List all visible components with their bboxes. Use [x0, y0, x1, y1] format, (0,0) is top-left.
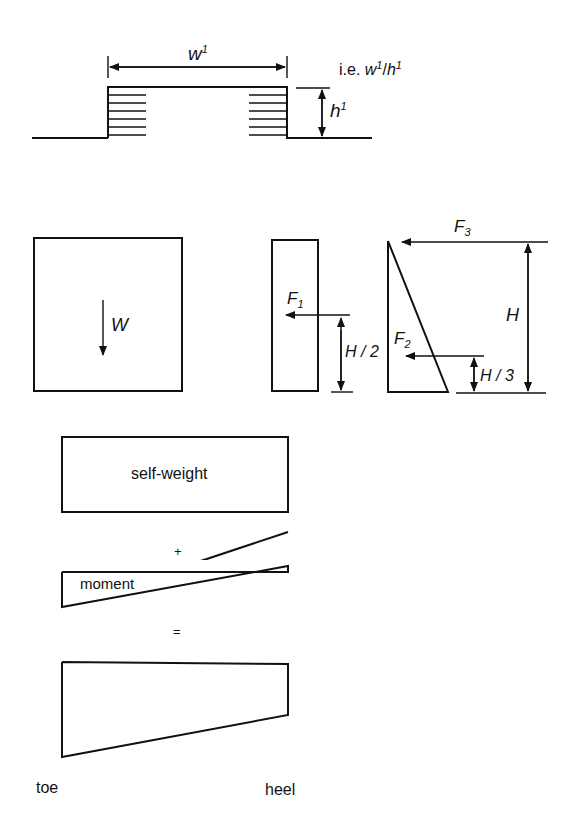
- f2-height-label: H / 3: [480, 368, 514, 384]
- moment-label: moment: [80, 576, 134, 591]
- plus-sign: +: [174, 545, 182, 558]
- total-height-label: H: [506, 306, 519, 324]
- equals-sign: =: [173, 625, 181, 638]
- width-label: w1: [188, 44, 208, 63]
- heel-label: heel: [265, 782, 295, 798]
- f1-label: F1: [287, 290, 304, 310]
- f1-height-label: H / 2: [345, 344, 379, 360]
- pressure-diagrams: [0, 0, 581, 831]
- self-weight-label: self-weight: [131, 466, 207, 482]
- f2-label: F2: [394, 330, 411, 350]
- height-label: h1: [330, 101, 347, 120]
- ratio-label: i.e. w1/h1: [339, 60, 402, 78]
- weight-label: W: [111, 316, 128, 334]
- toe-label: toe: [36, 780, 58, 796]
- f3-label: F3: [454, 218, 471, 238]
